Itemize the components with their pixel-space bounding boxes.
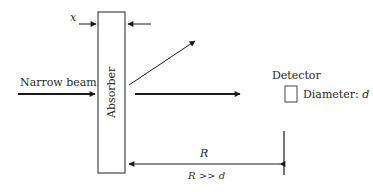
distance-symbol: R	[199, 147, 208, 160]
absorber: Absorber	[98, 12, 125, 173]
detector-diameter-label: Diameter: d	[303, 88, 369, 101]
incident-beam-label: Narrow beam	[20, 76, 97, 89]
thickness-symbol: x	[70, 11, 77, 24]
detector-diameter-symbol: d	[362, 88, 369, 101]
absorber-label: Absorber	[105, 66, 118, 119]
distance-indicator: R R >> d	[129, 131, 284, 181]
distance-condition: R >> d	[187, 170, 225, 181]
detector-diameter-prefix: Diameter:	[303, 88, 362, 101]
attenuation-diagram: Absorber x Narrow beam Detector Diameter…	[0, 0, 373, 192]
scattered-beam-arrow-icon	[129, 41, 195, 85]
detector: Detector Diameter: d	[272, 69, 369, 102]
detector-label: Detector	[272, 69, 321, 82]
incident-beam: Narrow beam	[18, 76, 97, 94]
detector-icon	[285, 86, 297, 102]
